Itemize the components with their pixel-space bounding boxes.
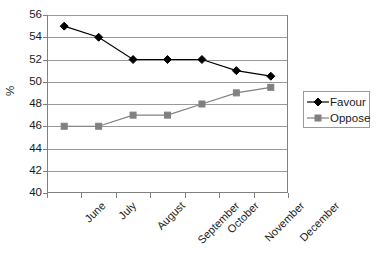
gridline <box>48 126 287 127</box>
y-tick-label: 54 <box>20 31 42 43</box>
x-tick-label: June <box>83 200 108 225</box>
plot-area <box>47 15 288 193</box>
gridline <box>48 104 287 105</box>
gridline <box>48 149 287 150</box>
x-tick-label: August <box>155 200 187 232</box>
legend-square-icon <box>306 111 330 125</box>
gridline <box>48 15 287 16</box>
x-tick-mark <box>47 193 48 198</box>
x-tick-mark <box>116 193 117 198</box>
chart-legend: FavourOppose <box>303 91 370 128</box>
legend-diamond-icon <box>306 95 330 109</box>
y-tick-label: 46 <box>20 120 42 132</box>
x-tick-mark <box>185 193 186 198</box>
x-tick-mark <box>219 193 220 198</box>
y-tick-label: 52 <box>20 54 42 66</box>
y-tick-label: 50 <box>20 76 42 88</box>
legend-item-favour[interactable]: Favour <box>306 94 369 110</box>
gridline <box>48 37 287 38</box>
x-tick-mark <box>150 193 151 198</box>
y-tick-label: 44 <box>20 143 42 155</box>
y-tick-label: 40 <box>20 187 42 199</box>
x-tick-mark <box>81 193 82 198</box>
legend-item-oppose[interactable]: Oppose <box>306 110 369 126</box>
x-tick-mark <box>288 193 289 198</box>
legend-label: Oppose <box>330 112 370 124</box>
x-tick-mark <box>254 193 255 198</box>
gridline <box>48 171 287 172</box>
y-tick-label: 42 <box>20 165 42 177</box>
legend-label: Favour <box>330 96 366 108</box>
y-axis-title: % <box>4 86 16 96</box>
x-tick-label: July <box>116 200 138 222</box>
y-tick-label: 56 <box>20 9 42 21</box>
gridline <box>48 82 287 83</box>
line-chart: % 404244464850525456 JuneJulyAugustSepte… <box>0 0 377 260</box>
gridline <box>48 60 287 61</box>
y-tick-label: 48 <box>20 98 42 110</box>
